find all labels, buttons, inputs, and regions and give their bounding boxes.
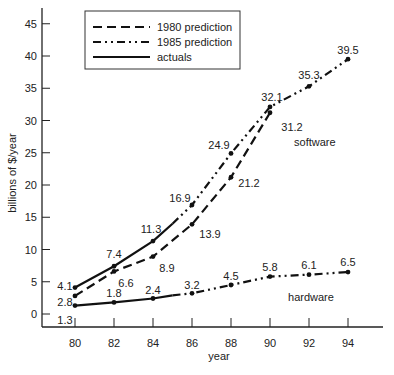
data-point: [268, 274, 273, 279]
y-tick-label: 0: [31, 308, 37, 320]
data-label: 8.9: [159, 262, 174, 274]
data-label: 3.2: [184, 279, 199, 291]
y-tick-label: 40: [25, 50, 37, 62]
data-point: [73, 285, 78, 290]
data-label: 39.5: [337, 44, 358, 56]
data-label: 5.8: [262, 261, 277, 273]
data-point: [151, 296, 156, 301]
data-point: [307, 84, 312, 89]
x-tick-label: 90: [264, 337, 276, 349]
y-tick-label: 5: [31, 276, 37, 288]
series-annotation-software: software: [294, 136, 336, 148]
data-label: 1.3: [57, 314, 72, 326]
data-point: [112, 269, 117, 274]
x-tick-label: 84: [147, 337, 159, 349]
data-label: 16.9: [169, 192, 190, 204]
x-tick-label: 86: [186, 337, 198, 349]
series-annotation-hardware: hardware: [288, 291, 334, 303]
data-point: [229, 175, 234, 180]
data-label: 6.1: [301, 259, 316, 271]
data-point: [112, 264, 117, 269]
y-axis-label: billions of $/year: [6, 133, 18, 213]
data-point: [112, 300, 117, 305]
chart-canvas: 0510152025303540458082848688909294yearbi…: [0, 0, 394, 375]
data-label: 7.4: [106, 248, 121, 260]
legend-label: 1980 prediction: [157, 21, 232, 33]
data-label: 4.5: [223, 270, 238, 282]
data-label: 2.4: [145, 284, 160, 296]
x-tick-label: 80: [69, 337, 81, 349]
data-point: [268, 105, 273, 110]
data-label: 4.1: [57, 280, 72, 292]
data-label: 13.9: [199, 228, 220, 240]
data-label: 21.2: [238, 177, 259, 189]
data-point: [307, 272, 312, 277]
data-point: [190, 222, 195, 227]
data-point: [151, 254, 156, 259]
y-tick-label: 30: [25, 115, 37, 127]
data-point: [346, 57, 351, 62]
x-tick-label: 88: [225, 337, 237, 349]
x-tick-label: 94: [342, 337, 354, 349]
legend-label: actuals: [157, 51, 192, 63]
x-tick-label: 82: [108, 337, 120, 349]
data-label: 35.3: [298, 69, 319, 81]
line-chart: 0510152025303540458082848688909294yearbi…: [0, 0, 394, 375]
data-point: [268, 110, 273, 115]
y-tick-label: 20: [25, 179, 37, 191]
data-point: [229, 151, 234, 156]
data-point: [73, 294, 78, 299]
data-point: [73, 303, 78, 308]
data-label: 2.8: [57, 296, 72, 308]
data-label: 1.8: [106, 287, 121, 299]
data-label: 31.2: [281, 121, 302, 133]
data-label: 11.3: [141, 223, 162, 235]
y-tick-label: 15: [25, 211, 37, 223]
x-axis-label: year: [208, 350, 230, 362]
data-point: [190, 291, 195, 296]
y-tick-label: 35: [25, 82, 37, 94]
data-point: [229, 283, 234, 288]
data-point: [346, 270, 351, 275]
x-tick-label: 92: [303, 337, 315, 349]
data-label: 24.9: [208, 139, 229, 151]
series-line: [75, 295, 173, 305]
y-tick-label: 10: [25, 244, 37, 256]
data-label: 32.1: [261, 91, 282, 103]
data-label: 6.5: [340, 256, 355, 268]
y-tick-label: 45: [25, 18, 37, 30]
legend-label: 1985 prediction: [157, 36, 232, 48]
data-point: [151, 239, 156, 244]
y-tick-label: 25: [25, 147, 37, 159]
